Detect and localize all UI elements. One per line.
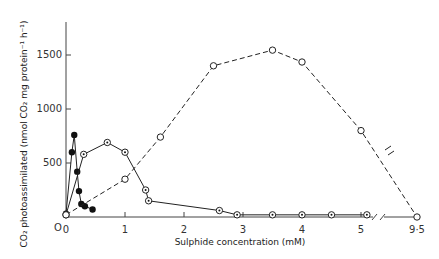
data-point (69, 149, 75, 155)
data-point-center (83, 153, 85, 155)
x-tick-label: 5 (358, 224, 364, 235)
data-point-center (301, 214, 303, 216)
data-point (210, 63, 216, 69)
y-tick-label: 1000 (37, 103, 62, 114)
y-tick-label: 500 (43, 157, 62, 168)
chart: 50010001500O0123459·5 Sulphide concentra… (0, 0, 439, 259)
data-point (122, 176, 128, 182)
x-tick-label: 1 (122, 224, 128, 235)
x-axis-title: Sulphide concentration (mM) (175, 237, 306, 247)
x-tick-label: 2 (181, 224, 187, 235)
curve-break-mark (388, 151, 394, 155)
series-layer (63, 47, 420, 220)
data-point (76, 188, 82, 194)
series-line-2 (66, 50, 417, 217)
x-tick-label: 0 (63, 224, 69, 235)
x-tick-label: 4 (299, 224, 305, 235)
curve-break-mark (385, 146, 391, 150)
data-point-center (331, 214, 333, 216)
data-point-center (366, 214, 368, 216)
y-axis-title: CO₂ photoassimilated (nmol CO₂ mg protei… (19, 21, 29, 248)
data-point (358, 127, 364, 133)
data-point-center (145, 189, 147, 191)
y-tick-label: 1500 (37, 49, 62, 60)
data-point (71, 132, 77, 138)
data-point-center (272, 214, 274, 216)
data-point (414, 214, 420, 220)
data-point-center (106, 141, 108, 143)
data-point-center (236, 214, 238, 216)
y-origin-label: O (54, 222, 62, 233)
series-line-1 (66, 142, 367, 214)
data-point (89, 206, 95, 212)
data-point (157, 134, 163, 140)
data-point-center (124, 151, 126, 153)
x-tick-label: 9·5 (409, 224, 425, 235)
data-point (63, 212, 69, 218)
data-point (82, 203, 88, 209)
data-point (269, 47, 275, 53)
axes: 50010001500O0123459·5 (37, 22, 425, 235)
data-point-center (148, 200, 150, 202)
x-tick-label: 3 (240, 224, 246, 235)
data-point-center (218, 210, 220, 212)
data-point (299, 59, 305, 65)
